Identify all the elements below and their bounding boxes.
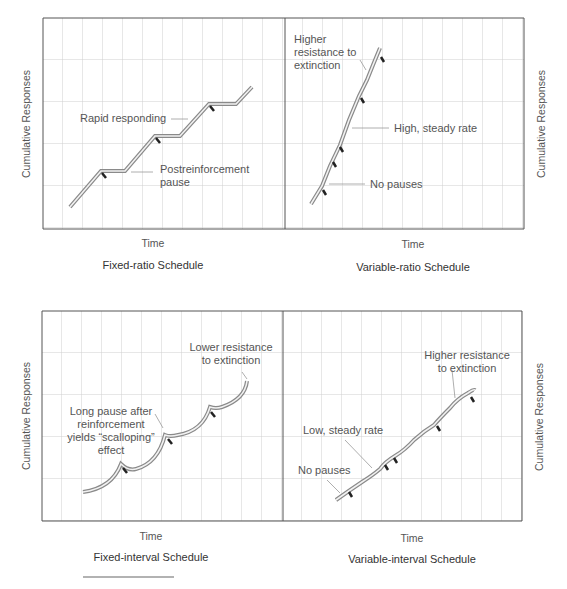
annotation-pause: pause: [160, 176, 190, 188]
panel-variable-interval: Higher resistance to extinction Low, ste…: [283, 311, 545, 565]
panel-fixed-interval: Lower resistance to extinction Long paus…: [20, 311, 283, 577]
annotation-no-pauses: No pauses: [370, 178, 423, 190]
panel-title: Variable-interval Schedule: [348, 553, 476, 565]
x-axis-label: Time: [402, 238, 425, 250]
annotation-effect: effect: [98, 444, 125, 456]
annotation-high-steady-rate: High, steady rate: [394, 122, 477, 134]
annotation-higher: Higher: [294, 33, 327, 45]
y-axis-label: Cumulative Responses: [535, 70, 547, 178]
annotation-lower-resistance: Lower resistance: [189, 341, 272, 353]
reinforcement-schedules-diagram: Rapid responding Postreinforcement pause…: [0, 0, 567, 589]
annotation-scalloping: yields “scalloping”: [67, 431, 155, 443]
panel-title: Fixed-interval Schedule: [94, 551, 209, 563]
y-axis-label: Cumulative Responses: [20, 70, 32, 178]
annotation-no-pauses: No pauses: [298, 464, 351, 476]
grid: [283, 311, 522, 521]
x-axis-label: Time: [140, 530, 163, 542]
annotation-low-steady-rate: Low, steady rate: [303, 424, 383, 436]
y-axis-label: Cumulative Responses: [20, 362, 32, 470]
panel-variable-ratio: Higher resistance to extinction High, st…: [285, 18, 547, 273]
panel-title: Fixed-ratio Schedule: [103, 259, 204, 271]
annotation-postreinforcement: Postreinforcement: [160, 163, 249, 175]
annotation-long-pause: Long pause after: [70, 405, 153, 417]
panel-title: Variable-ratio Schedule: [356, 261, 470, 273]
x-axis-label: Time: [401, 532, 424, 544]
annotation-reinforcement: reinforcement: [77, 418, 144, 430]
panel-fixed-ratio: Rapid responding Postreinforcement pause…: [20, 18, 285, 271]
annotation-rapid-responding: Rapid responding: [80, 112, 166, 124]
y-axis-label: Cumulative Responses: [533, 363, 545, 471]
annotation-resistance-to: resistance to: [294, 46, 356, 58]
x-axis-label: Time: [142, 237, 165, 249]
annotation-to-extinction: to extinction: [438, 362, 497, 374]
annotation-to-extinction: to extinction: [202, 354, 261, 366]
annotation-extinction: extinction: [294, 59, 340, 71]
annotation-higher-resistance: Higher resistance: [424, 349, 510, 361]
